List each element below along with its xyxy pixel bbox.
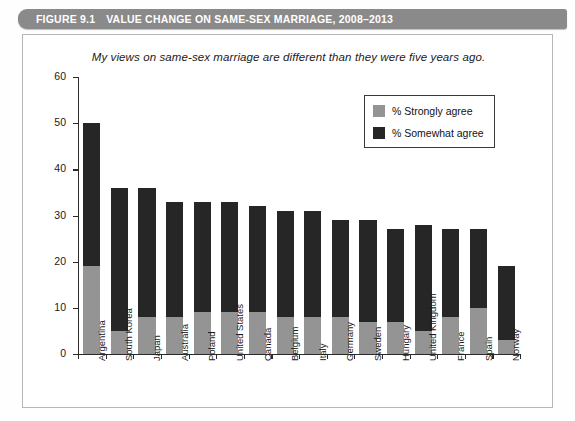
x-label-germany: Germany: [344, 322, 355, 361]
x-label-united-states: United States: [234, 304, 245, 361]
bar-segment-somewhat-agree: [194, 202, 211, 313]
figure-header-text: FIGURE 9.1 VALUE CHANGE ON SAME-SEX MARR…: [36, 11, 393, 27]
legend-label-strongly-agree: % Strongly agree: [392, 105, 473, 117]
bar-segment-somewhat-agree: [221, 202, 238, 313]
x-label-canada: Canada: [262, 328, 273, 361]
x-label-united-kingdom: United Kingdom: [427, 293, 438, 361]
chart-title: My views on same-sex marriage are differ…: [23, 51, 554, 63]
y-tick-label: 0: [60, 347, 66, 359]
y-tick: 10: [73, 308, 78, 309]
bar-segment-somewhat-agree: [359, 220, 376, 322]
x-label-australia: Australia: [179, 324, 190, 361]
bar-italy: [304, 211, 321, 354]
figure-container: FIGURE 9.1 VALUE CHANGE ON SAME-SEX MARR…: [0, 0, 575, 421]
legend-item-strongly-agree: % Strongly agree: [373, 102, 484, 119]
y-tick-label: 40: [54, 162, 66, 174]
bar-segment-somewhat-agree: [470, 229, 487, 307]
x-label-hungary: Hungary: [400, 325, 411, 361]
x-label-norway: Norway: [510, 329, 521, 361]
y-tick: 50: [73, 123, 78, 124]
x-tick: [78, 354, 79, 359]
y-tick-label: 10: [54, 301, 66, 313]
y-axis-line: [78, 77, 79, 354]
x-label-japan: Japan: [151, 335, 162, 361]
x-label-sweden: Sweden: [372, 327, 383, 361]
x-label-argentina: Argentina: [96, 320, 107, 361]
x-label-spain: Spain: [483, 337, 494, 361]
bar-segment-somewhat-agree: [442, 229, 459, 317]
bar-segment-somewhat-agree: [304, 211, 321, 317]
y-tick-label: 20: [54, 255, 66, 267]
bar-segment-somewhat-agree: [249, 206, 266, 312]
bar-segment-somewhat-agree: [277, 211, 294, 317]
bar-segment-somewhat-agree: [166, 202, 183, 317]
legend-swatch-strongly-agree: [373, 105, 385, 117]
chart-panel: My views on same-sex marriage are differ…: [22, 34, 553, 408]
y-tick-label: 50: [54, 116, 66, 128]
bar-segment-somewhat-agree: [138, 188, 155, 317]
chart-legend: % Strongly agree % Somewhat agree: [364, 95, 495, 148]
figure-title: VALUE CHANGE ON SAME-SEX MARRIAGE, 2008–…: [106, 13, 393, 25]
x-label-south-korea: South Korea: [123, 308, 134, 361]
legend-item-somewhat-agree: % Somewhat agree: [373, 124, 484, 141]
x-label-poland: Poland: [206, 331, 217, 361]
x-label-belgium: Belgium: [289, 327, 300, 361]
y-tick-label: 30: [54, 209, 66, 221]
y-tick-label: 60: [54, 70, 66, 82]
bar-japan: [138, 188, 155, 354]
x-label-italy: Italy: [317, 344, 328, 361]
legend-label-somewhat-agree: % Somewhat agree: [392, 127, 484, 139]
y-tick: 20: [73, 262, 78, 263]
bar-segment-somewhat-agree: [387, 229, 404, 321]
y-tick: 30: [73, 216, 78, 217]
bar-segment-somewhat-agree: [332, 220, 349, 317]
bar-segment-somewhat-agree: [83, 123, 100, 266]
x-label-france: France: [455, 331, 466, 361]
bar-spain: [470, 229, 487, 354]
figure-number: FIGURE 9.1: [36, 13, 95, 25]
y-tick: 40: [73, 169, 78, 170]
legend-swatch-somewhat-agree: [373, 127, 385, 139]
y-tick: 60: [73, 77, 78, 78]
